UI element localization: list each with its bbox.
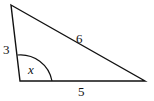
side-label-hypotenuse: 6 xyxy=(76,31,83,46)
angle-arc xyxy=(17,55,52,81)
side-label-bottom: 5 xyxy=(78,84,85,99)
side-label-left: 3 xyxy=(3,42,10,57)
triangle-diagram: 3 6 5 x xyxy=(0,0,154,101)
angle-label: x xyxy=(27,62,34,77)
